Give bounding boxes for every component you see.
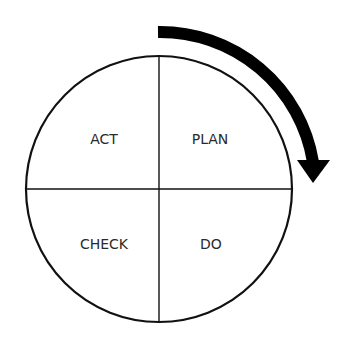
quadrant-label-plan: PLAN <box>192 131 229 147</box>
clockwise-arrow-icon <box>158 32 330 183</box>
quadrant-label-act: ACT <box>90 131 118 147</box>
quadrant-label-check: CHECK <box>80 236 129 252</box>
quadrant-label-do: DO <box>200 236 222 252</box>
pdca-diagram: ACT PLAN CHECK DO <box>0 0 344 343</box>
